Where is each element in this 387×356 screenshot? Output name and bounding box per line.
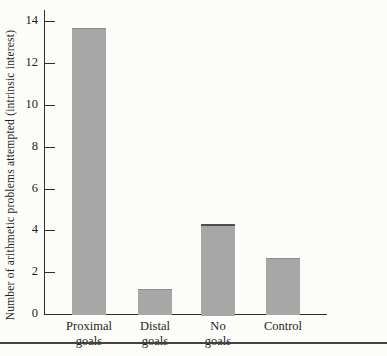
x-category-label: Control — [247, 319, 319, 334]
bar-chart-figure: Number of arithmetic problems attempted … — [0, 0, 387, 356]
y-tick-mark — [45, 230, 55, 231]
bar-proximal-goals — [72, 28, 106, 315]
bar-no-goals — [201, 224, 235, 316]
y-tick-mark — [45, 105, 55, 106]
y-tick-mark — [45, 21, 55, 22]
bar-control — [266, 258, 300, 315]
y-tick-mark — [45, 189, 55, 190]
y-tick-label: 12 — [12, 55, 38, 70]
y-tick-label: 8 — [12, 139, 38, 154]
y-tick-mark — [45, 63, 55, 64]
y-tick-label: 10 — [12, 97, 38, 112]
y-tick-mark — [45, 272, 55, 273]
y-tick-label: 0 — [12, 306, 38, 321]
y-axis-line — [44, 10, 45, 315]
y-tick-label: 6 — [12, 181, 38, 196]
bar-distal-goals — [138, 289, 172, 315]
y-tick-label: 4 — [12, 222, 38, 237]
y-tick-label: 2 — [12, 264, 38, 279]
y-tick-mark — [45, 314, 55, 315]
page-rule — [0, 342, 387, 344]
y-tick-mark — [45, 147, 55, 148]
y-tick-label: 14 — [12, 13, 38, 28]
